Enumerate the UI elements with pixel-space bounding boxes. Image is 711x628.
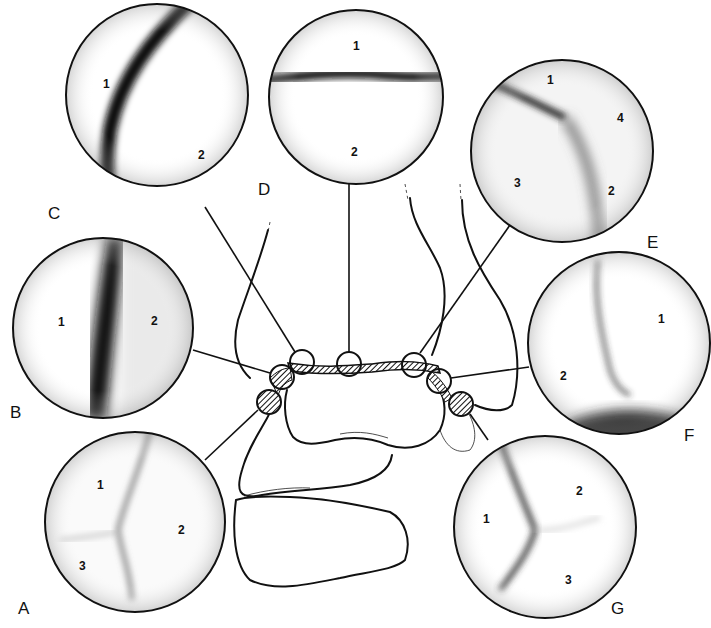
svg-text:1: 1 — [353, 39, 360, 53]
svg-text:1: 1 — [103, 77, 110, 91]
arthroscopic-view-b: 1 2 B — [10, 238, 210, 422]
arthroscopic-view-a: 1 2 3 A — [18, 430, 225, 618]
arthroscopic-view-e: 1 3 2 4 E — [471, 60, 658, 252]
svg-text:1: 1 — [97, 478, 104, 492]
ankle-arthroscopy-figure: 1 2 C 1 2 D 1 3 2 4 E — [0, 0, 711, 628]
svg-text:2: 2 — [560, 369, 567, 383]
svg-text:C: C — [48, 204, 60, 223]
svg-text:1: 1 — [483, 512, 490, 526]
portal-marker-g — [449, 392, 473, 416]
svg-text:E: E — [647, 233, 658, 252]
svg-text:2: 2 — [151, 314, 158, 328]
arthroscopic-view-d: 1 2 D — [258, 10, 450, 199]
svg-text:2: 2 — [198, 148, 205, 162]
svg-text:1: 1 — [58, 315, 65, 329]
svg-text:G: G — [611, 599, 624, 618]
svg-text:3: 3 — [514, 176, 521, 190]
arthroscopic-view-f: 1 2 F — [528, 252, 710, 460]
svg-text:B: B — [10, 403, 21, 422]
svg-text:2: 2 — [608, 184, 615, 198]
svg-text:2: 2 — [576, 484, 583, 498]
svg-text:2: 2 — [178, 523, 185, 537]
svg-text:2: 2 — [351, 145, 358, 159]
portal-marker-a — [257, 390, 281, 414]
svg-text:3: 3 — [79, 559, 86, 573]
svg-text:A: A — [18, 599, 30, 618]
svg-text:1: 1 — [547, 73, 554, 87]
svg-text:F: F — [684, 426, 694, 445]
svg-text:4: 4 — [617, 111, 624, 125]
svg-text:1: 1 — [658, 312, 665, 326]
arthroscopic-view-g: 2 1 3 G — [454, 436, 636, 618]
svg-text:D: D — [258, 180, 270, 199]
svg-text:3: 3 — [565, 573, 572, 587]
arthroscopic-view-c: 1 2 C — [48, 2, 248, 223]
